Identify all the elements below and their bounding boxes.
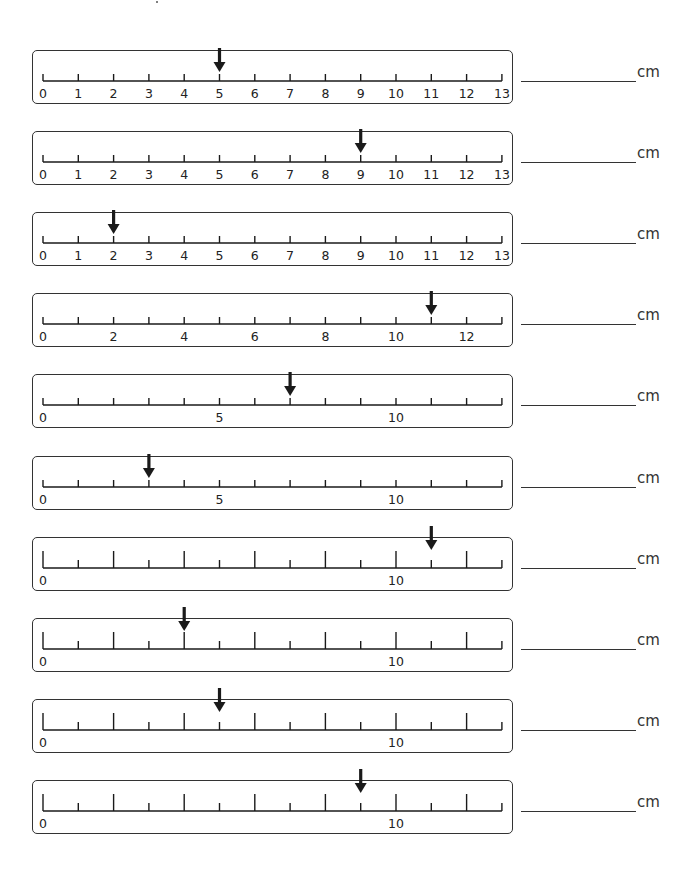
answer-blank-4[interactable] [521, 324, 636, 325]
tick-label: 2 [110, 86, 118, 101]
answer-blank-10[interactable] [521, 811, 636, 812]
tick-label: 2 [110, 248, 118, 263]
tick-label: 0 [39, 167, 47, 182]
ruler: 010 [0, 525, 698, 595]
tick-label: 11 [423, 86, 439, 101]
answer-blank-8[interactable] [521, 649, 636, 650]
tick-label: 0 [39, 248, 47, 263]
tick-label: 0 [39, 573, 47, 588]
ruler-question-3: 012345678910111213 cm [0, 200, 698, 270]
ruler: 010 [0, 687, 698, 757]
arrow-down-icon [214, 48, 226, 72]
unit-label: cm [637, 225, 660, 243]
unit-label: cm [637, 712, 660, 730]
tick-label: 10 [388, 654, 404, 669]
tick-label: 7 [286, 248, 294, 263]
arrow-down-icon [425, 291, 437, 315]
ruler: 0510 [0, 362, 698, 432]
tick-label: 0 [39, 492, 47, 507]
tick-label: 6 [251, 167, 259, 182]
ruler: 0510 [0, 444, 698, 514]
tick-label: 12 [459, 167, 475, 182]
ruler-question-9: 010 cm [0, 687, 698, 757]
tick-label: 8 [321, 329, 329, 344]
ruler: 012345678910111213 [0, 119, 698, 189]
answer-blank-7[interactable] [521, 568, 636, 569]
tick-label: 0 [39, 410, 47, 425]
tick-label: 13 [494, 248, 510, 263]
ruler: 012345678910111213 [0, 200, 698, 270]
answer-blank-9[interactable] [521, 730, 636, 731]
tick-label: 12 [459, 86, 475, 101]
ruler-question-6: 0510 cm [0, 444, 698, 514]
arrow-down-icon [178, 607, 190, 631]
tick-label: 12 [459, 248, 475, 263]
tick-label: 1 [74, 86, 82, 101]
arrow-down-icon [355, 129, 367, 153]
tick-label: 5 [216, 86, 224, 101]
tick-label: 0 [39, 654, 47, 669]
tick-label: 4 [180, 86, 188, 101]
tick-label: 3 [145, 167, 153, 182]
tick-label: 5 [216, 492, 224, 507]
unit-label: cm [637, 631, 660, 649]
unit-label: cm [637, 469, 660, 487]
tick-label: 9 [357, 167, 365, 182]
tick-label: 8 [321, 248, 329, 263]
unit-label: cm [637, 793, 660, 811]
tick-label: 4 [180, 329, 188, 344]
unit-label: cm [637, 306, 660, 324]
tick-label: 0 [39, 329, 47, 344]
tick-label: 3 [145, 248, 153, 263]
tick-label: 5 [216, 410, 224, 425]
answer-blank-1[interactable] [521, 81, 636, 82]
tick-label: 0 [39, 816, 47, 831]
arrow-down-icon [143, 454, 155, 478]
tick-label: 6 [251, 329, 259, 344]
tick-label: 9 [357, 86, 365, 101]
arrow-down-icon [108, 210, 120, 234]
unit-label: cm [637, 63, 660, 81]
tick-label: 2 [110, 167, 118, 182]
ruler-question-8: 010 cm [0, 606, 698, 676]
answer-blank-6[interactable] [521, 487, 636, 488]
tick-label: 2 [110, 329, 118, 344]
ruler: 010 [0, 768, 698, 838]
tick-label: 6 [251, 248, 259, 263]
tick-label: 10 [388, 410, 404, 425]
tick-label: 10 [388, 86, 404, 101]
tick-label: 0 [39, 735, 47, 750]
answer-blank-5[interactable] [521, 405, 636, 406]
answer-blank-2[interactable] [521, 162, 636, 163]
unit-label: cm [637, 144, 660, 162]
tick-label: 1 [74, 248, 82, 263]
ruler-question-2: 012345678910111213 cm [0, 119, 698, 189]
ruler: 012345678910111213 [0, 38, 698, 108]
tick-label: 4 [180, 248, 188, 263]
arrow-down-icon [284, 372, 296, 396]
tick-label: 10 [388, 735, 404, 750]
tick-label: 10 [388, 329, 404, 344]
tick-label: 8 [321, 86, 329, 101]
tick-label: 1 [74, 167, 82, 182]
ruler-question-1: 012345678910111213 cm [0, 38, 698, 108]
tick-label: 13 [494, 86, 510, 101]
tick-label: 3 [145, 86, 153, 101]
ruler-question-7: 010 cm [0, 525, 698, 595]
tick-label: 4 [180, 167, 188, 182]
tick-label: 0 [39, 86, 47, 101]
unit-label: cm [637, 550, 660, 568]
tick-label: 7 [286, 86, 294, 101]
tick-label: 11 [423, 248, 439, 263]
tick-label: 10 [388, 573, 404, 588]
arrow-down-icon [425, 526, 437, 550]
ruler: 010 [0, 606, 698, 676]
tick-label: 12 [459, 329, 475, 344]
tick-label: 5 [216, 248, 224, 263]
tick-label: 13 [494, 167, 510, 182]
unit-label: cm [637, 387, 660, 405]
ruler-question-10: 010 cm [0, 768, 698, 838]
tick-label: 10 [388, 248, 404, 263]
answer-blank-3[interactable] [521, 243, 636, 244]
tick-label: 9 [357, 248, 365, 263]
